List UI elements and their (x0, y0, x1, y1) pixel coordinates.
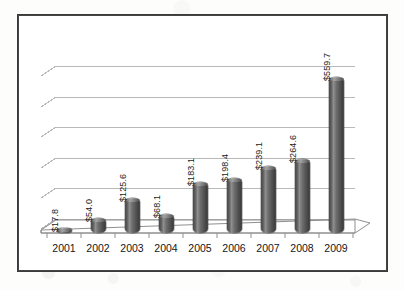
category-label-2001: 2001 (47, 242, 81, 254)
category-label-2002: 2002 (81, 242, 115, 254)
data-label-2008: $264.6 (288, 135, 298, 163)
chart-frame: $17.8 $54.0 $125.6 $68.1 $183.1 $198.4 $… (17, 14, 388, 272)
bar-2005[interactable] (193, 182, 208, 233)
data-label-2007: $239.1 (254, 142, 264, 170)
category-label-2009: 2009 (319, 242, 353, 254)
gridline-500 (41, 97, 355, 107)
data-label-2002: $54.0 (84, 199, 94, 222)
data-label-2005: $183.1 (186, 158, 196, 186)
data-label-2006: $198.4 (220, 154, 230, 182)
gridline-400 (41, 127, 355, 137)
category-label-2007: 2007 (251, 242, 285, 254)
bar-2007[interactable] (261, 166, 276, 233)
bar-2009[interactable] (329, 77, 344, 233)
floor-right-back (355, 219, 370, 223)
data-label-2003: $125.6 (118, 174, 128, 202)
bar-2006[interactable] (227, 178, 242, 233)
scanned-page: $17.8 $54.0 $125.6 $68.1 $183.1 $198.4 $… (0, 0, 404, 290)
bar-2003[interactable] (125, 198, 140, 233)
floor-depth-right (355, 223, 370, 233)
data-label-2009: $559.7 (322, 53, 332, 81)
category-label-2005: 2005 (183, 242, 217, 254)
data-label-2001: $17.8 (50, 209, 60, 232)
category-label-2008: 2008 (285, 242, 319, 254)
gridline-600 (41, 66, 355, 76)
bar-2008[interactable] (295, 159, 310, 233)
category-ticks (47, 233, 353, 238)
category-label-2004: 2004 (149, 242, 183, 254)
data-label-2004: $68.1 (152, 195, 162, 218)
category-label-2003: 2003 (115, 242, 149, 254)
category-label-2006: 2006 (217, 242, 251, 254)
